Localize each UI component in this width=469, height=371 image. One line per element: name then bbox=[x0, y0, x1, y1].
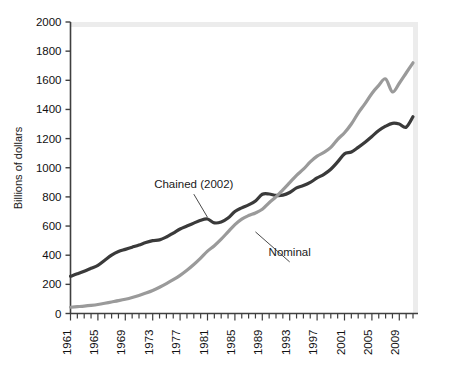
x-tick-label: 1985 bbox=[225, 330, 237, 356]
y-axis-ticks: 0200400600800100012001400160018002000 bbox=[36, 16, 71, 320]
x-tick-label: 1969 bbox=[115, 330, 127, 356]
x-tick-label: 2009 bbox=[389, 330, 401, 356]
y-axis-title: Billions of dollars bbox=[12, 126, 24, 209]
x-tick-label: 2001 bbox=[335, 330, 347, 356]
x-tick-label: 1997 bbox=[307, 330, 319, 356]
plot-background bbox=[70, 22, 418, 313]
chart-figure: Billions of dollars 02004006008001000120… bbox=[0, 0, 469, 371]
y-tick-label: 200 bbox=[42, 278, 61, 290]
y-tick-label: 1800 bbox=[36, 45, 62, 57]
y-tick-label: 0 bbox=[55, 308, 61, 320]
y-tick-label: 400 bbox=[42, 249, 61, 261]
y-tick-label: 1000 bbox=[36, 162, 62, 174]
x-tick-label: 1965 bbox=[88, 330, 100, 356]
x-tick-label: 1981 bbox=[198, 330, 210, 356]
x-tick-label: 1993 bbox=[280, 330, 292, 356]
x-tick-label: 1973 bbox=[143, 330, 155, 356]
y-tick-label: 800 bbox=[42, 191, 61, 203]
y-tick-label: 600 bbox=[42, 220, 61, 232]
x-tick-label: 1989 bbox=[252, 330, 264, 356]
chained-label: Chained (2002) bbox=[154, 178, 233, 190]
x-tick-label: 1977 bbox=[170, 330, 182, 356]
x-tick-label: 2005 bbox=[362, 330, 374, 356]
nominal-label: Nominal bbox=[269, 246, 311, 258]
plot-shadow-right bbox=[413, 22, 418, 313]
y-tick-label: 2000 bbox=[36, 16, 62, 28]
x-axis-ticks: 1961196519691973197719811985198919931997… bbox=[61, 314, 414, 356]
line-chart: Billions of dollars 02004006008001000120… bbox=[0, 0, 469, 371]
y-tick-label: 1400 bbox=[36, 103, 62, 115]
plot-shadow-top bbox=[70, 22, 418, 27]
x-tick-label: 1961 bbox=[61, 330, 73, 356]
y-tick-label: 1200 bbox=[36, 133, 62, 145]
y-tick-label: 1600 bbox=[36, 74, 62, 86]
